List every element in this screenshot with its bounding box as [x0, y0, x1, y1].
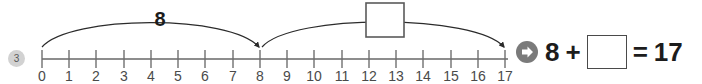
- equation-missing-addend-box[interactable]: [587, 35, 627, 69]
- tick-label: 16: [470, 68, 486, 84]
- tick-label: 2: [92, 68, 100, 84]
- arrow-right-circle-icon: [515, 40, 539, 64]
- tick-label: 12: [361, 68, 377, 84]
- tick-label: 1: [65, 68, 73, 84]
- tick-label: 15: [443, 68, 459, 84]
- tick-label: 8: [256, 68, 264, 84]
- jump-label-first: 8: [154, 8, 165, 30]
- equation: 8 + = 17: [515, 30, 683, 74]
- tick-label: 14: [415, 68, 431, 84]
- tick-label: 10: [306, 68, 322, 84]
- tick-label: 9: [283, 68, 291, 84]
- equation-plus-sign: +: [565, 39, 580, 65]
- tick-label: 6: [201, 68, 209, 84]
- equation-equals-sign: =: [633, 39, 648, 65]
- tick-label: 0: [38, 68, 46, 84]
- tick-label: 11: [335, 68, 350, 84]
- equation-first-addend: 8: [545, 39, 559, 65]
- tick-label: 5: [174, 68, 182, 84]
- tick-label: 7: [229, 68, 237, 84]
- jump-arc-0-to-8: [42, 23, 259, 47]
- equation-sum: 17: [654, 39, 683, 65]
- tick-label: 13: [388, 68, 404, 84]
- tick-label: 3: [120, 68, 128, 84]
- tick-label: 4: [147, 68, 155, 84]
- jump-label-blank-box[interactable]: [366, 3, 404, 37]
- number-line-problem: 3 0 1 2: [0, 0, 702, 84]
- tick-label: 17: [497, 68, 513, 84]
- tick-labels: 0 1 2 3 4 5 6 7 8 9 10 11 12 13 14 15 16…: [38, 68, 513, 84]
